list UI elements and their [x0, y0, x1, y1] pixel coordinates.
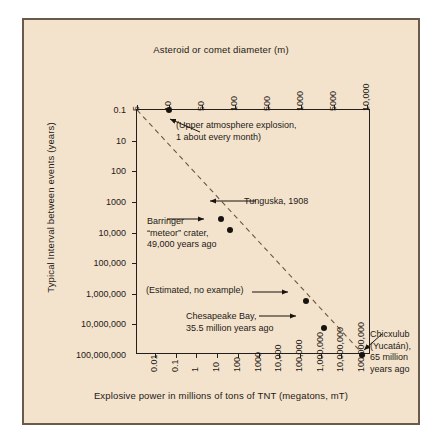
trend-line [137, 110, 369, 353]
data-point-chesapeake-bay [321, 325, 327, 331]
y-tick-label: 100,000,000 [26, 350, 126, 360]
data-point-estimated-no-example [303, 298, 309, 304]
y-tick-label: 100 [26, 166, 126, 176]
top-tick-label: 100 [229, 96, 239, 111]
x-tick-label: 100,000 [294, 339, 304, 372]
y-tick-label: 100,000 [26, 258, 126, 268]
x-axis-title: Explosive power in millions of tons of T… [24, 390, 418, 401]
top-tick-label: 1000 [295, 91, 305, 111]
y-tick-label: 0.1 [26, 105, 126, 115]
y-axis-title: Typical Interval between events (years) [45, 98, 56, 318]
x-tick-label: 100,000,000 [356, 322, 366, 372]
y-tick-mark [132, 171, 137, 172]
data-point-barringer [227, 227, 233, 233]
x-tick-label: 0.01 [149, 354, 159, 372]
x-tick-label: 10 [211, 362, 221, 372]
figure-card: Asteroid or comet diameter (m) Explosive… [22, 18, 420, 425]
y-tick-label: 10,000,000 [26, 319, 126, 329]
top-tick-label: 500 [262, 96, 272, 111]
x-tick-label: 10,000,000 [335, 327, 345, 372]
data-point-upper-atmosphere-explosion [166, 107, 172, 113]
x-tick-label: 1,000,000 [315, 332, 325, 372]
top-tick-label: 50 [196, 101, 206, 111]
y-tick-mark [132, 263, 137, 264]
top-tick-label: 5000 [328, 91, 338, 111]
annotation-chicxulub: Chicxulub (Yucatán), 65 million years ag… [370, 329, 411, 375]
top-axis-title: Asteroid or comet diameter (m) [24, 44, 418, 55]
y-tick-mark [132, 294, 137, 295]
x-tick-mark [196, 353, 197, 358]
data-point-tunguska [218, 216, 224, 222]
x-tick-label: 1 [190, 367, 200, 372]
y-tick-label: 1,000,000 [26, 289, 126, 299]
data-point-chicxulub [359, 352, 365, 358]
x-tick-label: 1000 [253, 352, 263, 372]
x-tick-mark [176, 353, 177, 358]
y-tick-mark [132, 324, 137, 325]
y-tick-label: 1000 [26, 197, 126, 207]
y-tick-label: 10 [26, 136, 126, 146]
top-tick-label: 10,000 [361, 83, 371, 111]
x-tick-label: 10,000 [273, 344, 283, 372]
y-tick-mark [132, 202, 137, 203]
x-tick-label: 100 [232, 357, 242, 372]
x-tick-label: 0.1 [170, 359, 180, 372]
y-tick-label: 10,000 [26, 228, 126, 238]
top-tick-label: 5 [131, 106, 141, 111]
x-tick-mark [217, 353, 218, 358]
y-tick-mark [132, 233, 137, 234]
plot-area: 0.010.1110100100010,000100,0001,000,0001… [136, 109, 370, 354]
y-tick-mark [132, 141, 137, 142]
